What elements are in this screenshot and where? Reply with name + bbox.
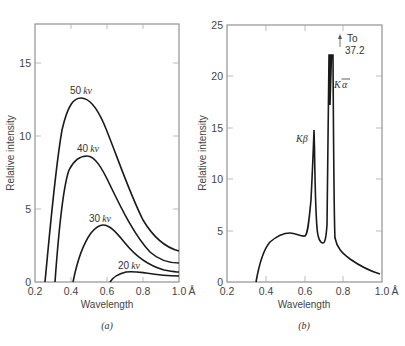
figure: 0 5 10 15 0.2 0.4 0.6 0.8 1.0 Å Relative… — [0, 0, 405, 346]
arrowhead-icon — [338, 34, 342, 39]
panel-b-xtick-0.8: 0.8 — [336, 285, 351, 297]
panel-b-xunit: Å — [391, 285, 398, 297]
panel-b-xtick-1.0: 1.0 — [375, 285, 390, 297]
label-kalpha-k: K — [333, 79, 342, 90]
label-kbeta: Kβ — [295, 133, 308, 144]
curve-mo-spectrum — [256, 55, 380, 282]
label-kalpha: K α — [333, 79, 350, 90]
panel-b-y-ticks — [227, 76, 382, 231]
label-kalpha-alpha: α — [342, 79, 348, 90]
panel-a: 0 5 10 15 0.2 0.4 0.6 0.8 1.0 Å Relative… — [5, 24, 196, 332]
panel-b-ytick-25: 25 — [211, 19, 223, 31]
panel-b-xtick-0.6: 0.6 — [298, 285, 313, 297]
label-30kv: 30kv — [89, 213, 112, 224]
panel-b-ytick-20: 20 — [211, 70, 223, 82]
panel-a-xtick-0.2: 0.2 — [28, 285, 43, 297]
panel-b-xtick-0.2: 0.2 — [220, 285, 235, 297]
curve-30kv — [73, 225, 179, 282]
panel-a-ytick-15: 15 — [19, 57, 31, 69]
panel-a-ylabel: Relative intensity — [5, 115, 16, 191]
panel-a-xtick-0.8: 0.8 — [136, 285, 151, 297]
to-label: To — [347, 33, 358, 44]
label-20kv: 20kv — [118, 260, 141, 271]
panel-a-caption: (a) — [101, 320, 113, 332]
panel-b-frame — [227, 25, 382, 282]
panel-a-y-ticks — [35, 63, 179, 209]
curve-40kv — [55, 156, 179, 282]
panel-a-frame — [35, 24, 179, 282]
panel-a-xtick-1.0: 1.0 — [172, 285, 187, 297]
to-value: 37.2 — [345, 45, 365, 56]
panel-a-xtick-0.6: 0.6 — [100, 285, 115, 297]
panel-a-xunit: Å — [188, 285, 195, 297]
label-40kv: 40kv — [77, 143, 100, 154]
panel-b-ylabel: Relative intensity — [197, 115, 208, 191]
panel-a-ytick-10: 10 — [19, 130, 31, 142]
panel-b-ytick-10: 10 — [211, 173, 223, 185]
panel-a-xtick-0.4: 0.4 — [64, 285, 79, 297]
panel-b-ytick-5: 5 — [217, 225, 223, 237]
panel-b-xtick-0.4: 0.4 — [259, 285, 274, 297]
panel-a-xlabel: Wavelength — [81, 299, 133, 310]
curve-20kv — [110, 272, 179, 282]
panel-a-ytick-5: 5 — [25, 203, 31, 215]
panel-b-ytick-15: 15 — [211, 122, 223, 134]
panel-b-xlabel: Wavelength — [278, 299, 330, 310]
panel-b-caption: (b) — [298, 320, 310, 332]
label-50kv: 50kv — [70, 85, 93, 96]
panel-b: 0 5 10 15 20 25 0.2 0.4 0.6 0.8 1.0 Å Re… — [197, 19, 399, 332]
to-37-annotation: To 37.2 — [338, 33, 365, 56]
